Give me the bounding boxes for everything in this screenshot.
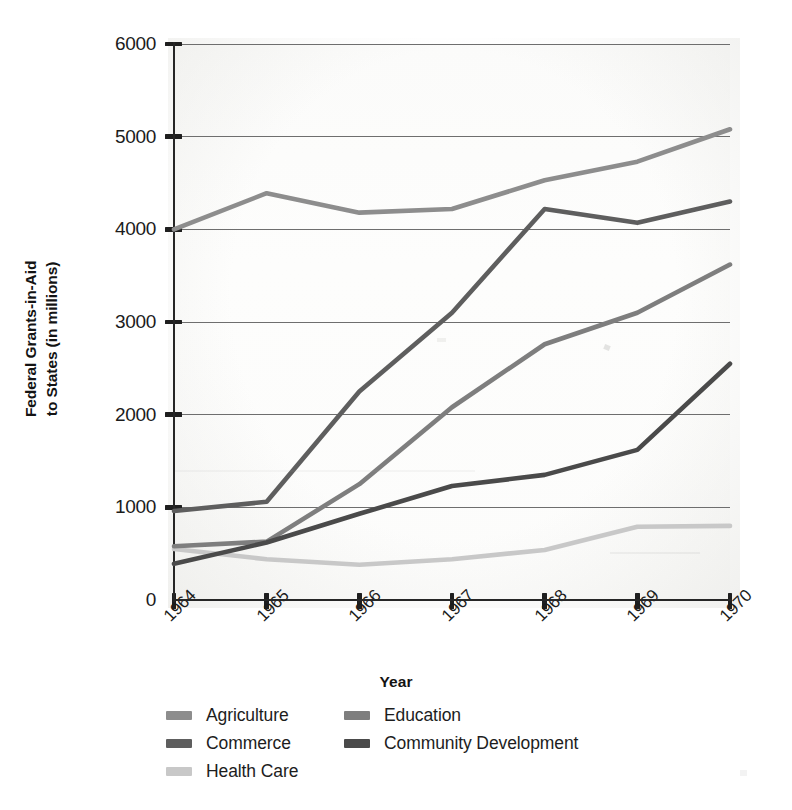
legend-swatch-icon bbox=[166, 767, 192, 776]
gridline-y bbox=[176, 322, 730, 323]
gridline-y bbox=[176, 44, 730, 45]
legend-label: Commerce bbox=[206, 733, 291, 754]
legend-swatch-icon bbox=[344, 739, 370, 748]
y-tick-label: 3000 bbox=[66, 311, 156, 333]
legend-item: Community Development bbox=[344, 730, 578, 756]
legend-column-right: EducationCommunity Development bbox=[344, 702, 578, 758]
y-tick-label: 6000 bbox=[66, 33, 156, 55]
y-tick-label: 2000 bbox=[66, 404, 156, 426]
y-axis-line bbox=[173, 42, 175, 602]
gridline-y bbox=[176, 229, 730, 230]
legend-label: Agriculture bbox=[206, 705, 289, 726]
x-axis-line bbox=[173, 599, 732, 601]
legend-item: Commerce bbox=[166, 730, 298, 756]
legend-swatch-icon bbox=[166, 711, 192, 720]
legend-item: Health Care bbox=[166, 758, 298, 784]
y-tick-label: 4000 bbox=[66, 218, 156, 240]
x-axis-title: Year bbox=[0, 673, 792, 691]
y-tick-label: 1000 bbox=[66, 496, 156, 518]
y-axis-title: Federal Grants-in-Aid to States (in mill… bbox=[21, 189, 63, 489]
legend-label: Community Development bbox=[384, 733, 578, 754]
legend-label: Education bbox=[384, 705, 461, 726]
gridline-y bbox=[176, 414, 730, 415]
legend-item: Education bbox=[344, 702, 578, 728]
legend-item: Agriculture bbox=[166, 702, 298, 728]
legend-swatch-icon bbox=[166, 739, 192, 748]
scan-speckle bbox=[740, 770, 747, 776]
y-tick-label: 0 bbox=[66, 589, 156, 611]
legend-label: Health Care bbox=[206, 761, 298, 782]
legend-column-left: AgricultureCommerceHealth Care bbox=[166, 702, 298, 786]
legend-swatch-icon bbox=[344, 711, 370, 720]
y-tick-label: 5000 bbox=[66, 126, 156, 148]
gridline-y bbox=[176, 507, 730, 508]
chart-figure: Federal Grants-in-Aid to States (in mill… bbox=[0, 0, 792, 810]
gridline-y bbox=[176, 136, 730, 137]
